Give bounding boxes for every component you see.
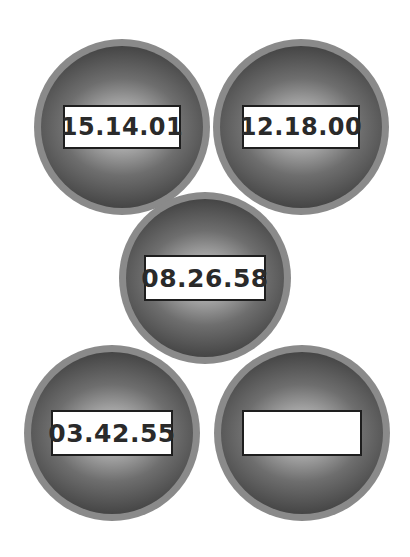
time-text: 15.14.01 [61, 113, 183, 141]
sphere: 03.42.55 [31, 352, 193, 514]
time-label-box: 03.42.55 [51, 410, 173, 456]
sphere: 15.14.01 [41, 46, 203, 208]
time-text: 03.42.55 [48, 419, 175, 448]
empty-label-box [242, 410, 362, 456]
badge-4: 03.42.55 [24, 345, 200, 521]
sphere: 08.26.58 [126, 199, 284, 357]
sphere: 12.18.00 [220, 46, 382, 208]
time-label-box: 08.26.58 [144, 255, 266, 301]
time-text: 08.26.58 [141, 264, 268, 293]
sphere [221, 352, 383, 514]
badge-5 [214, 345, 390, 521]
badge-3: 08.26.58 [119, 192, 291, 364]
badge-1: 15.14.01 [34, 39, 210, 215]
time-label-box: 12.18.00 [242, 105, 360, 149]
time-text: 12.18.00 [240, 113, 362, 141]
time-label-box: 15.14.01 [63, 105, 181, 149]
badge-2: 12.18.00 [213, 39, 389, 215]
